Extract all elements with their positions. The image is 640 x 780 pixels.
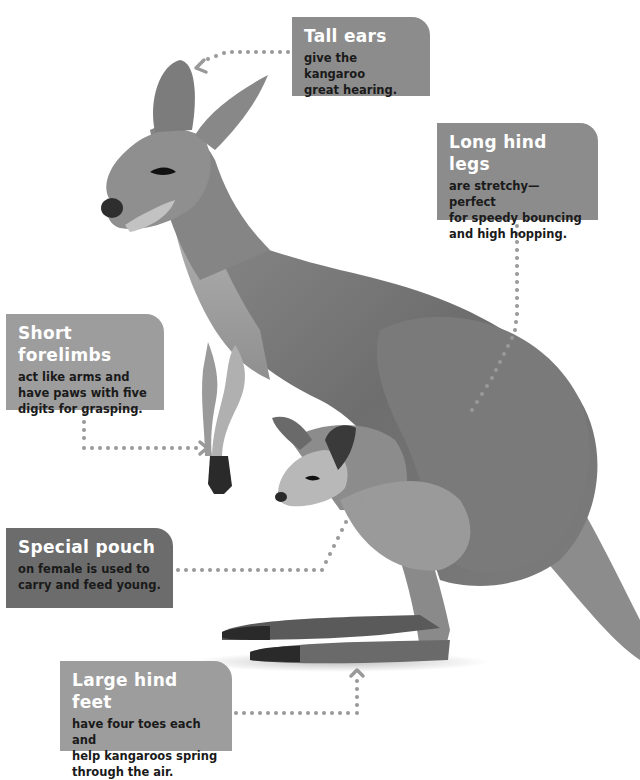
callout-desc: on female is used to carry and feed youn… xyxy=(18,561,161,593)
leader-special-pouch xyxy=(176,504,356,572)
kangaroo-ear-left xyxy=(153,60,195,132)
callout-title: Short forelimbs xyxy=(18,322,152,366)
callout-title: Special pouch xyxy=(18,536,161,558)
callout-special-pouch: Special pouch on female is used to carry… xyxy=(6,528,173,608)
kangaroo-nose xyxy=(101,198,123,218)
callout-short-forelimbs: Short forelimbs act like arms and have p… xyxy=(6,314,164,410)
leader-tall-ears xyxy=(206,50,290,61)
leader-short-forelimbs xyxy=(82,412,198,450)
callout-title: Large hind feet xyxy=(72,669,220,713)
callout-long-hind-legs: Long hind legs are stretchy—perfect for … xyxy=(437,123,598,220)
leader-large-hind-feet xyxy=(234,679,359,715)
kangaroo-forepaw xyxy=(208,456,232,494)
callout-desc: act like arms and have paws with five di… xyxy=(18,369,152,417)
callout-desc: are stretchy—perfect for speedy bouncing… xyxy=(449,178,586,242)
kangaroo-forelimb xyxy=(212,345,245,458)
callout-large-hind-feet: Large hind feet have four toes each and … xyxy=(60,661,232,751)
callout-tall-ears: Tall ears give the kangaroo great hearin… xyxy=(292,17,430,96)
pouch xyxy=(340,481,470,571)
kangaroo-ear-right xyxy=(195,75,268,150)
callout-title: Long hind legs xyxy=(449,131,586,175)
joey-nose xyxy=(275,492,287,502)
callout-desc: have four toes each and help kangaroos s… xyxy=(72,716,220,780)
arrow-tall-ears-icon xyxy=(196,60,206,72)
callout-title: Tall ears xyxy=(304,25,418,47)
callout-desc: give the kangaroo great hearing. xyxy=(304,50,418,98)
